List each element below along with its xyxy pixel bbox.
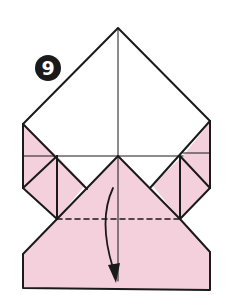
step-number-badge: 9 bbox=[35, 55, 61, 81]
origami-diagram bbox=[0, 0, 241, 307]
